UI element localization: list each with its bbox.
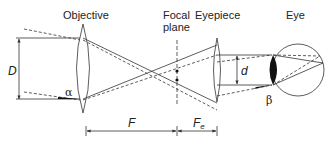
eye-lens bbox=[270, 55, 278, 85]
Fe-symbol: Fe bbox=[193, 116, 205, 131]
focal-plane-label-line2: plane bbox=[163, 21, 190, 33]
aperture-D-symbol: D bbox=[8, 64, 17, 78]
eyepiece-label: Eyepiece bbox=[195, 9, 240, 21]
F-symbol: F bbox=[128, 116, 136, 130]
ray-solid-bottom-mid bbox=[83, 45, 217, 99]
ray-eye-solid-2 bbox=[273, 63, 323, 85]
beta-symbol: β bbox=[266, 94, 272, 107]
focal-point-dashed bbox=[175, 78, 178, 81]
focal-point-solid bbox=[175, 69, 178, 72]
ray-dashed-top-out bbox=[217, 55, 272, 62]
ray-eye-dashed-2 bbox=[273, 56, 320, 85]
eye-label: Eye bbox=[286, 9, 305, 21]
telescope-optics-diagram: Objective Focal plane Eyepiece Eye D α d… bbox=[0, 0, 332, 146]
Fe-subscript: e bbox=[200, 122, 205, 131]
objective-label: Objective bbox=[63, 9, 109, 21]
exit-pupil-d-symbol: d bbox=[241, 64, 248, 78]
eyepiece-lens bbox=[214, 38, 221, 102]
alpha-symbol: α bbox=[65, 86, 73, 99]
focal-plane-label-line1: Focal bbox=[163, 9, 190, 21]
ray-dashed-top-mid bbox=[83, 40, 217, 110]
eyeball bbox=[272, 44, 324, 96]
